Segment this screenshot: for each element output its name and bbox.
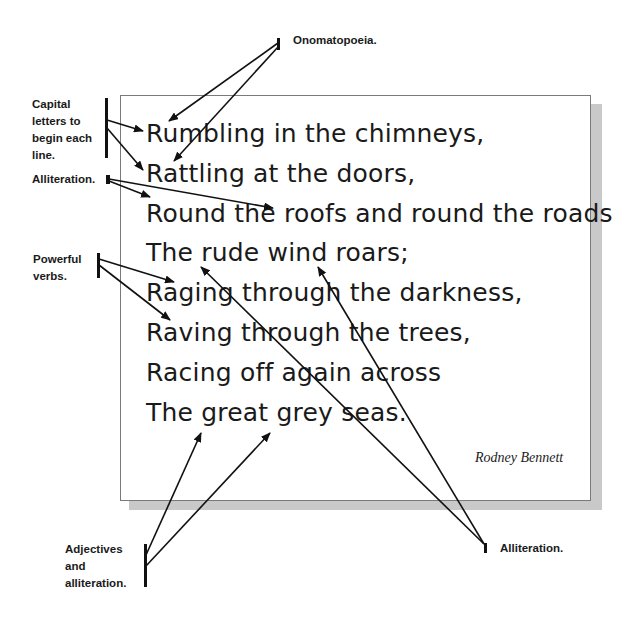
arrow-onomatopoeia-rattling [174,47,278,161]
arrow-capital-rattling [107,128,143,170]
arrow-adjectives-grey [146,433,270,566]
arrow-alliteration-roofs [109,179,273,208]
arrow-onomatopoeia-rumbling [169,43,278,121]
annotation-arrows [0,0,631,618]
arrow-capital-rumbling [107,120,143,131]
arrow-verbs-raving [99,265,170,320]
arrow-verbs-raging [99,259,174,282]
